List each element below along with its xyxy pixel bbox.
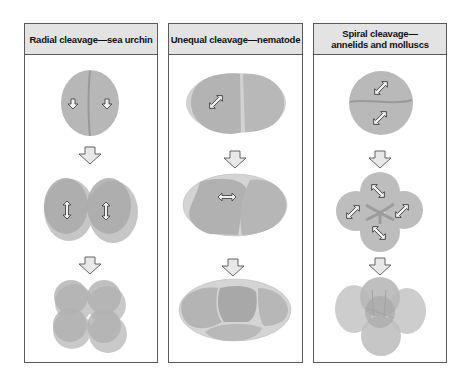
stage-arrow-down-icon bbox=[79, 257, 101, 274]
stage-arrow-down-icon bbox=[79, 147, 101, 164]
unequal-stage-4cell bbox=[179, 279, 291, 341]
cleavage-diagrams bbox=[0, 0, 473, 384]
radial-stage-2cell bbox=[61, 70, 119, 136]
spiral-stage-2cell bbox=[349, 71, 413, 135]
stage-arrow-down-icon bbox=[224, 151, 246, 168]
spiral-stage-8cell bbox=[335, 277, 426, 356]
radial-stage-4cell bbox=[44, 178, 138, 243]
stage-arrow-down-icon bbox=[222, 259, 244, 276]
stage-arrow-down-icon bbox=[369, 151, 391, 168]
stage-arrow-down-icon bbox=[369, 258, 391, 275]
radial-stage-8cell bbox=[53, 280, 127, 353]
unequal-stage-3cell bbox=[183, 174, 287, 236]
unequal-stage-2cell bbox=[186, 73, 286, 134]
spiral-stage-4cell bbox=[336, 172, 423, 252]
